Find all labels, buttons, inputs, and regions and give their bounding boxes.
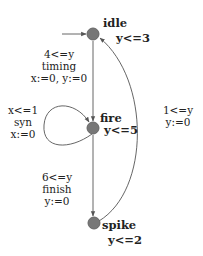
guard: 4<=y xyxy=(24,48,94,60)
sync: finish xyxy=(32,183,82,195)
guard: x<=1 xyxy=(4,104,42,116)
guard: 6<=y xyxy=(32,171,82,183)
edge-fire-loop-label: x<=1 syn x:=0 xyxy=(4,104,42,140)
state-spike-node[interactable] xyxy=(88,217,100,229)
state-idle-name: idle xyxy=(103,16,127,30)
edge-fire-loop[interactable] xyxy=(44,106,92,145)
edge-spike-idle-label: 1<=y y:=0 xyxy=(158,104,198,128)
state-fire-node[interactable] xyxy=(87,122,99,134)
edge-idle-fire-label: 4<=y timing x:=0, y:=0 xyxy=(24,48,94,84)
state-fire-invariant: y<=5 xyxy=(104,123,138,137)
state-spike-name: spike xyxy=(102,218,136,232)
edge-fire-spike-label: 6<=y finish y:=0 xyxy=(32,171,82,207)
guard: 1<=y xyxy=(158,104,198,116)
update: y:=0 xyxy=(32,195,82,207)
state-spike-invariant: y<=2 xyxy=(108,233,142,247)
state-idle-node[interactable] xyxy=(87,28,99,40)
sync: timing xyxy=(24,60,94,72)
update: x:=0 xyxy=(4,128,42,140)
sync: syn xyxy=(4,116,42,128)
update: x:=0, y:=0 xyxy=(24,72,94,84)
update: y:=0 xyxy=(158,116,198,128)
state-idle-invariant: y<=3 xyxy=(116,31,150,45)
